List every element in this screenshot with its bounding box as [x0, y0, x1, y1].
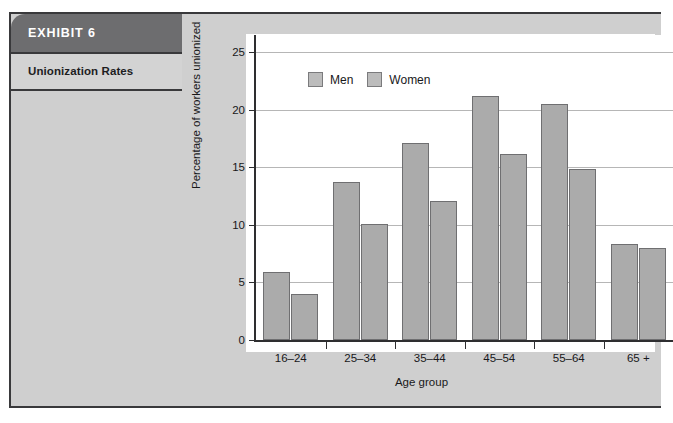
x-category-label: 16–24	[275, 352, 307, 364]
chart-legend: MenWomen	[308, 72, 430, 87]
exhibit-sidebar-body	[11, 91, 182, 406]
x-tick-mark	[604, 342, 605, 349]
x-category-label: 45–54	[483, 352, 515, 364]
bar-women-2	[430, 201, 457, 340]
y-tick-label: 5	[239, 276, 245, 288]
y-tick-mark	[249, 225, 256, 226]
y-gridline	[256, 225, 673, 226]
y-gridline	[256, 167, 673, 168]
y-tick-label: 20	[232, 104, 245, 116]
bar-men-2	[402, 143, 429, 340]
exhibit-number-label: EXHIBIT 6	[28, 26, 96, 40]
y-tick-mark	[249, 340, 256, 341]
bar-men-5	[611, 244, 638, 340]
y-gridline	[256, 110, 673, 111]
legend-entry-women: Women	[367, 72, 430, 87]
x-category-label: 25–34	[344, 352, 376, 364]
exhibit-sidebar: EXHIBIT 6 Unionization Rates	[11, 14, 182, 406]
x-tick-mark	[395, 342, 396, 349]
exhibit-title: Unionization Rates	[28, 65, 133, 77]
bar-women-5	[639, 248, 666, 340]
x-category-label: 55–64	[553, 352, 585, 364]
bar-men-4	[541, 104, 568, 340]
x-category-label: 65 +	[627, 352, 650, 364]
y-gridline	[256, 52, 673, 53]
legend-swatch-icon	[308, 72, 323, 87]
y-tick-mark	[249, 282, 256, 283]
x-tick-mark	[534, 342, 535, 349]
bar-men-1	[333, 182, 360, 340]
bar-women-3	[500, 154, 527, 340]
exhibit-header-band: EXHIBIT 6	[11, 14, 182, 54]
y-axis-title: Percentage of workers unionized	[190, 22, 202, 190]
legend-entry-men: Men	[308, 72, 353, 87]
x-tick-mark	[326, 342, 327, 349]
y-tick-label: 25	[232, 46, 245, 58]
plot-area: MenWomen 051015202516–2425–3435–4445–545…	[254, 35, 673, 342]
bar-men-0	[263, 272, 290, 340]
x-tick-mark	[465, 342, 466, 349]
y-tick-label: 15	[232, 161, 245, 173]
y-tick-label: 10	[232, 219, 245, 231]
figure-region: Percentage of workers unionized MenWomen…	[182, 14, 661, 406]
bar-women-1	[361, 224, 388, 340]
x-category-label: 35–44	[414, 352, 446, 364]
y-tick-label: 0	[239, 334, 245, 346]
bar-men-3	[472, 96, 499, 340]
x-axis-title: Age group	[182, 376, 661, 388]
exhibit-frame: EXHIBIT 6 Unionization Rates Percentage …	[9, 12, 661, 408]
y-tick-mark	[249, 167, 256, 168]
legend-swatch-icon	[367, 72, 382, 87]
legend-label: Men	[330, 73, 353, 87]
legend-label: Women	[389, 73, 430, 87]
bar-women-4	[569, 169, 596, 340]
y-tick-mark	[249, 110, 256, 111]
exhibit-title-band: Unionization Rates	[11, 54, 182, 91]
bar-women-0	[291, 294, 318, 340]
y-tick-mark	[249, 52, 256, 53]
